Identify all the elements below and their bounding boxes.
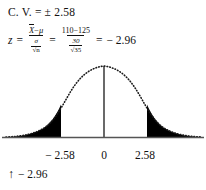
z-result-value: − 2.96 [106, 34, 136, 46]
x-bar-symbol: X [29, 26, 34, 35]
z-substituted-fraction: 110−125 30 √35 [60, 27, 92, 54]
axis-label-positive-critical: 2.58 [122, 148, 168, 162]
test-statistic-value: − 2.96 [18, 168, 48, 180]
statistics-figure: C. V.=± 2.58 z = X−μ σ √n = 110−125 [0, 0, 206, 190]
critical-value-value: ± 2.58 [45, 6, 76, 18]
critical-value-line: C. V.=± 2.58 [8, 5, 75, 19]
critical-value-equals: = [35, 6, 42, 18]
z-substituted-denominator: 30 √35 [67, 35, 84, 54]
critical-value-label: C. V. [8, 6, 32, 18]
mu-symbol: μ [39, 25, 43, 35]
sigma-symbol: σ [33, 38, 38, 46]
test-statistic-annotation: ↑− 2.96 [8, 167, 48, 182]
z-general-numerator: X−μ [27, 26, 45, 35]
axis-label-center: 0 [92, 148, 116, 162]
up-arrow-icon: ↑ [8, 167, 18, 182]
sqrt-sample-size: √35 [69, 45, 82, 54]
right-rejection-region-shading [147, 105, 200, 138]
z-equals-first: = [12, 34, 27, 46]
z-general-formula-fraction: X−μ σ √n [27, 26, 45, 55]
z-general-denominator: σ √n [29, 35, 42, 55]
axis-label-negative-critical: − 2.58 [34, 148, 86, 162]
normal-curve-svg [0, 56, 206, 140]
formula-block: C. V.=± 2.58 z = X−μ σ √n = 110−125 [0, 0, 206, 58]
sqrt-n-symbol: √n [31, 46, 40, 55]
z-equals-second: = [45, 34, 60, 46]
z-equation-line: z = X−μ σ √n = 110−125 30 [8, 26, 136, 54]
axis-label-row: − 2.58 0 2.58 [0, 148, 206, 168]
sample-sigma-value: 30 [71, 38, 80, 46]
z-equals-third: = [92, 34, 107, 46]
normal-curve-area [0, 56, 206, 140]
z-substituted-numerator: 110−125 [60, 27, 92, 36]
thirty-over-sqrt-35: 30 √35 [69, 38, 82, 54]
sigma-over-sqrt-n: σ √n [31, 38, 40, 54]
